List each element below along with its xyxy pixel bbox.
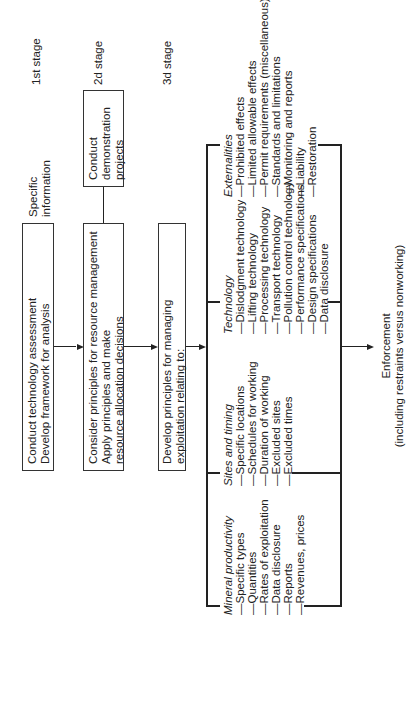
box-demonstration-projects: Conduct demonstration projects <box>83 90 124 187</box>
group-item: —Monitoring and reports <box>282 0 294 197</box>
box-technology-assessment: Conduct technology assessment Develop fr… <box>22 223 54 471</box>
arrow-2-3-head <box>151 344 158 350</box>
group-technology-title: Technology <box>222 182 234 334</box>
group-item: —Design specifications <box>306 182 318 334</box>
box-resource-management-line1: Consider principles for resource managem… <box>87 230 100 464</box>
group-item: —Reports <box>282 499 294 615</box>
group-item: —Prohibited effects <box>234 0 246 197</box>
connector-1-2-line <box>54 346 76 347</box>
bracket-tick-sites <box>206 472 220 474</box>
group-item: —Limited allowable effects <box>246 0 258 197</box>
group-item: —Dislodgment technology <box>234 182 246 334</box>
box-resource-management-line2: Apply principles and make <box>100 230 113 464</box>
bracket-tick-externalities <box>206 144 220 146</box>
group-item: —Excluded sites <box>270 361 282 486</box>
diagram-canvas: 1st stage 2d stage 3d stage Specific inf… <box>0 0 415 711</box>
group-item: —Permit requirements (miscellaneous) <box>258 0 270 197</box>
enforcement-line2: (including restraints versus nonworking) <box>393 231 406 461</box>
input-label-line2: information <box>40 160 53 217</box>
group-item: —Quantities <box>246 499 258 615</box>
box-resource-management: Consider principles for resource managem… <box>83 223 124 471</box>
group-item: —Duration of working <box>258 361 270 486</box>
bracket-tick-technology <box>206 301 220 303</box>
group-item: —Specific locations <box>234 361 246 486</box>
connector-2-3-line <box>124 346 151 347</box>
arrow-enforcement-head <box>367 344 374 350</box>
group-item: —Data disclosure <box>270 499 282 615</box>
bracket-right-tick-externalities <box>318 144 341 146</box>
group-item: —Revenues, prices <box>294 499 306 615</box>
group-item: —Lifting technology <box>246 182 258 334</box>
connector-2-demo <box>103 187 104 223</box>
group-item: —Excluded times <box>282 361 294 486</box>
box-demonstration-line3: projects <box>113 97 126 180</box>
group-item: —Processing technology <box>258 182 270 334</box>
stage-label-1: 1st stage <box>30 38 43 85</box>
box-exploitation-line1: Develop principles for managing <box>161 230 174 464</box>
enforcement-line1: Enforcement <box>380 231 393 461</box>
stage-label-2: 2d stage <box>92 41 105 85</box>
group-item: —Pollution control technology <box>282 182 294 334</box>
bracket-tick-mineral <box>206 605 220 607</box>
box-demonstration-line2: demonstration <box>100 97 113 180</box>
box-demonstration-line1: Conduct <box>87 97 100 180</box>
group-externalities-title: Externalities <box>222 0 234 197</box>
group-item: —Restoration <box>306 0 318 197</box>
input-label: Specific information <box>27 160 53 217</box>
bracket-right-spine <box>340 144 342 607</box>
box-exploitation-line2: exploitation relating to: <box>174 230 187 464</box>
box-resource-management-line3: resource allocation decisions <box>113 230 126 464</box>
group-item: —Transport technology <box>270 182 282 334</box>
group-technology: Technology —Dislodgment technology —Lift… <box>222 182 330 334</box>
box-exploitation-principles: Develop principles for managing exploita… <box>158 223 186 471</box>
group-externalities: Externalities —Prohibited effects —Limit… <box>222 0 318 197</box>
group-mineral-productivity: Mineral productivity —Specific types —Qu… <box>222 499 306 615</box>
group-sites-and-timing: Sites and timing —Specific locations —Sc… <box>222 361 294 486</box>
group-mineral-productivity-title: Mineral productivity <box>222 499 234 615</box>
arrow-3-bracket-head <box>199 344 206 350</box>
input-label-line1: Specific <box>27 160 40 217</box>
group-item: —Performance specifications <box>294 182 306 334</box>
box-technology-assessment-line2: Develop framework for analysis <box>39 230 52 464</box>
bracket-right-tick-sites <box>292 472 341 474</box>
group-item: —Rates of exploitation <box>258 499 270 615</box>
group-item: —Schedules for working <box>246 361 258 486</box>
stage-label-3: 3d stage <box>161 41 174 85</box>
group-item: —Data disclosure <box>318 182 330 334</box>
group-item: —Liability <box>294 0 306 197</box>
group-sites-title: Sites and timing <box>222 361 234 486</box>
bracket-right-tick-mineral <box>304 605 341 607</box>
box-technology-assessment-line1: Conduct technology assessment <box>26 230 39 464</box>
connector-enforcement-line <box>341 346 368 347</box>
enforcement-label: Enforcement (including restraints versus… <box>380 231 406 461</box>
bracket-left-spine <box>206 145 208 607</box>
connector-3-bracket-line <box>186 346 200 347</box>
group-item: —Specific types <box>234 499 246 615</box>
group-item: —Standards and limitations <box>270 0 282 197</box>
